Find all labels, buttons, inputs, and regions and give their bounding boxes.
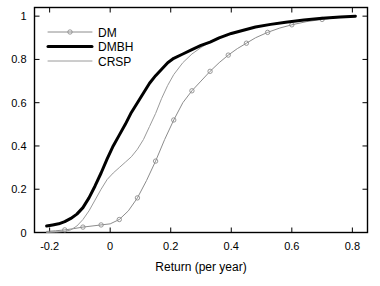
x-axis-title: Return (per year) (155, 260, 246, 274)
x-tick-label: 0.6 (284, 240, 299, 252)
legend-label-crsp: CRSP (98, 55, 131, 69)
x-tick-label: 0.8 (345, 240, 360, 252)
y-tick-label: 0 (20, 227, 26, 239)
y-tick-label: 0.4 (11, 140, 26, 152)
legend-label-dmbh: DMBH (98, 40, 133, 54)
y-tick-label: 0.6 (11, 97, 26, 109)
y-tick-label: 0.2 (11, 183, 26, 195)
cdf-line-chart: -0.200.20.40.60.800.20.40.60.81Return (p… (0, 0, 380, 286)
y-tick-label: 1 (20, 10, 26, 22)
chart-figure: -0.200.20.40.60.800.20.40.60.81Return (p… (0, 0, 380, 286)
x-tick-label: -0.2 (40, 240, 59, 252)
plot-frame (35, 8, 368, 233)
x-tick-label: 0.4 (224, 240, 239, 252)
x-tick-label: 0.2 (163, 240, 178, 252)
legend-label-dm: DM (98, 26, 117, 40)
y-tick-label: 0.8 (11, 53, 26, 65)
x-tick-label: 0 (107, 240, 113, 252)
